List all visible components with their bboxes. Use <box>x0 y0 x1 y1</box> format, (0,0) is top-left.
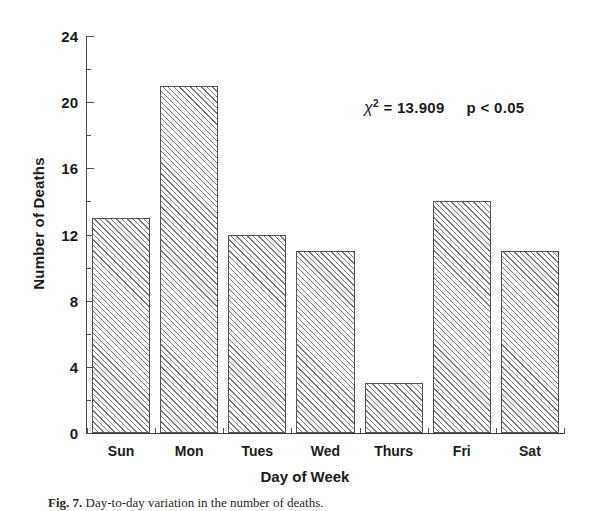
chi-superscript: 2 <box>373 98 379 109</box>
x-tick <box>428 428 429 433</box>
y-tick-major: 16 <box>87 168 94 169</box>
chi-symbol: χ <box>364 99 373 116</box>
y-tick-minor <box>87 201 91 202</box>
y-tick-label: 12 <box>61 226 78 243</box>
y-tick-label: 8 <box>70 292 78 309</box>
x-axis-line <box>86 433 565 434</box>
caption-figure-number: Fig. 7. <box>48 495 82 510</box>
x-tick <box>87 428 88 433</box>
figure-caption: Fig. 7. Day-to-day variation in the numb… <box>48 495 578 511</box>
plot-area: 04812162024 SunMonTuesWedThursFriSat <box>87 36 564 433</box>
y-tick-minor <box>87 135 91 136</box>
x-tick <box>564 428 565 433</box>
x-tick <box>291 428 292 433</box>
y-axis-title: Number of Deaths <box>30 124 47 324</box>
y-tick-major: 20 <box>87 102 94 103</box>
bar-tues <box>228 235 286 434</box>
y-tick-major: 0 <box>87 433 94 434</box>
y-tick-major: 24 <box>87 36 94 37</box>
x-tick-label-fri: Fri <box>453 443 471 459</box>
chi-value: = 13.909 <box>383 99 444 116</box>
bar-mon <box>160 86 218 433</box>
chi-square-annotation: χ2 = 13.909p < 0.05 <box>364 98 524 117</box>
x-tick <box>360 428 361 433</box>
x-tick-label-sun: Sun <box>108 443 134 459</box>
bar-thurs <box>365 383 423 433</box>
y-tick-minor <box>87 69 91 70</box>
y-tick-label: 16 <box>61 160 78 177</box>
y-tick-minor <box>87 334 91 335</box>
x-tick <box>155 428 156 433</box>
x-tick-label-mon: Mon <box>175 443 204 459</box>
bar-sat <box>501 251 559 433</box>
y-tick-minor <box>87 268 91 269</box>
y-tick-minor <box>87 400 91 401</box>
bar-sun <box>92 218 150 433</box>
caption-text: Day-to-day variation in the number of de… <box>86 495 324 510</box>
y-tick-label: 4 <box>70 358 78 375</box>
bar-fri <box>433 201 491 433</box>
x-tick-label-tues: Tues <box>242 443 274 459</box>
p-value: p < 0.05 <box>467 99 525 116</box>
x-tick-label-sat: Sat <box>519 443 541 459</box>
bar-wed <box>296 251 354 433</box>
x-tick <box>223 428 224 433</box>
y-tick-label: 0 <box>70 425 78 442</box>
y-tick-label: 24 <box>61 28 78 45</box>
y-tick-label: 20 <box>61 94 78 111</box>
x-axis-title: Day of Week <box>0 468 610 485</box>
x-tick-label-wed: Wed <box>311 443 340 459</box>
x-tick <box>496 428 497 433</box>
x-tick-label-thurs: Thurs <box>374 443 413 459</box>
